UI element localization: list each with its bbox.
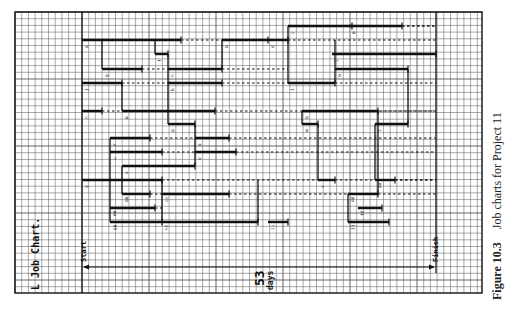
svg-text:b: b: [224, 45, 229, 48]
start-label: Start: [80, 241, 88, 262]
finish-label: Finish: [432, 237, 440, 262]
svg-text:s: s: [197, 143, 202, 146]
svg-text:j: j: [84, 88, 89, 91]
svg-text:e: e: [351, 31, 356, 34]
chart-title: L Job Chart.: [30, 218, 41, 290]
svg-text:d: d: [270, 45, 275, 48]
figure-label: Figure 10.3: [490, 242, 504, 300]
svg-text:n: n: [84, 116, 89, 119]
svg-text:cc: cc: [164, 196, 169, 202]
figure-title: Job charts for Project 11: [490, 112, 504, 229]
svg-text:ii: ii: [270, 224, 275, 230]
svg-text:q: q: [304, 116, 309, 119]
svg-text:hh: hh: [164, 224, 169, 230]
svg-text:z: z: [320, 185, 325, 188]
duration-value: 53: [252, 270, 267, 286]
svg-text:a: a: [84, 45, 89, 48]
svg-text:ff: ff: [360, 210, 365, 216]
svg-text:m: m: [337, 74, 342, 77]
svg-text:u: u: [112, 157, 117, 160]
job-chart: abcdefghijklmnopqrstuvwxyzaabbccddeeffgg…: [0, 0, 515, 315]
svg-text:k: k: [170, 88, 175, 91]
svg-text:i: i: [334, 59, 339, 62]
duration-unit: days: [266, 271, 275, 290]
svg-text:o: o: [124, 116, 129, 119]
svg-text:bb: bb: [124, 196, 129, 202]
svg-text:f: f: [157, 59, 162, 62]
svg-text:aa: aa: [377, 182, 382, 188]
svg-text:r: r: [112, 143, 117, 146]
svg-text:x: x: [124, 171, 129, 174]
svg-text:v: v: [197, 157, 202, 160]
svg-text:l: l: [290, 88, 295, 91]
svg-text:t: t: [377, 129, 382, 132]
figure-caption: Figure 10.3 Job charts for Project 11: [490, 112, 505, 300]
svg-text:jj: jj: [350, 225, 355, 230]
svg-text:dd: dd: [350, 196, 355, 202]
svg-text:y: y: [84, 185, 89, 188]
svg-text:g: g: [104, 74, 109, 77]
job-bars: abcdefghijklmnopqrstuvwxyzaabbccddeeffgg…: [82, 23, 436, 231]
svg-text:gg: gg: [112, 224, 117, 230]
svg-text:ee: ee: [112, 210, 117, 216]
svg-text:h: h: [170, 74, 175, 77]
svg-text:w: w: [304, 129, 309, 132]
svg-text:c: c: [290, 31, 295, 34]
svg-text:p: p: [170, 129, 175, 132]
